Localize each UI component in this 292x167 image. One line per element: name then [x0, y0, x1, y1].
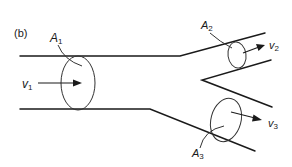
- label-a1-sub: 1: [58, 37, 62, 46]
- branch-divider: [202, 60, 272, 107]
- arrow-v1-head: [73, 80, 82, 87]
- pipe-lower-wall: [20, 109, 255, 151]
- label-v1-sub: 1: [28, 83, 32, 92]
- arrow-v3-head: [252, 115, 262, 122]
- cross-section-a3: [206, 95, 246, 145]
- label-v3-sub: 3: [274, 122, 278, 131]
- arrow-v3-shaft: [231, 112, 255, 118]
- leader-a2: [210, 33, 232, 48]
- label-a1-base: A: [50, 31, 58, 45]
- label-v3: v3: [268, 118, 278, 131]
- panel-label: (b): [14, 28, 27, 39]
- pipe-branch-diagram: [0, 0, 292, 167]
- label-v2: v2: [269, 40, 279, 53]
- label-a3: A3: [192, 148, 204, 161]
- label-v2-sub: 2: [275, 44, 279, 53]
- label-v1: v1: [22, 78, 32, 92]
- label-a2: A2: [201, 20, 213, 33]
- label-a2-sub: 2: [208, 24, 212, 33]
- cross-section-a2: [226, 41, 247, 69]
- label-a1: A1: [50, 32, 62, 46]
- label-a3-sub: 3: [199, 152, 203, 161]
- arrow-v2-head: [256, 44, 265, 51]
